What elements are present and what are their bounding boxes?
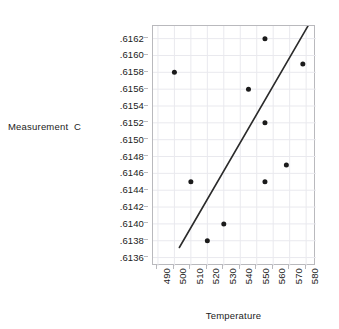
y-tick-mark xyxy=(144,155,148,156)
x-tick-label: 500 xyxy=(177,268,188,284)
y-tick-label: .6140 xyxy=(120,217,144,228)
y-tick-label: .6162 xyxy=(120,32,144,43)
y-tick-mark xyxy=(144,138,148,139)
x-tick-label: 530 xyxy=(227,268,238,284)
x-tick-mark xyxy=(288,265,289,269)
y-tick-label: .6160 xyxy=(120,49,144,60)
x-tick-label: 540 xyxy=(243,268,254,284)
x-tick-mark xyxy=(206,265,207,269)
y-tick-label: .6146 xyxy=(120,167,144,178)
data-point xyxy=(300,61,305,66)
x-tick-label: 510 xyxy=(194,268,205,284)
data-point xyxy=(262,120,267,125)
y-tick-mark xyxy=(144,88,148,89)
x-tick-label: 560 xyxy=(276,268,287,284)
y-tick-mark xyxy=(144,105,148,106)
y-tick-label: .6154 xyxy=(120,100,144,111)
y-axis-tick-labels: .6136.6138.6140.6142.6144.6146.6148.6150… xyxy=(86,0,148,329)
x-tick-mark xyxy=(239,265,240,269)
x-axis-title: Temperature xyxy=(152,310,315,321)
x-tick-mark xyxy=(173,265,174,269)
y-tick-mark xyxy=(144,121,148,122)
scatter-plot-figure: Measurement C .6136.6138.6140.6142.6144.… xyxy=(0,0,339,329)
x-tick-mark xyxy=(255,265,256,269)
y-tick-mark xyxy=(144,37,148,38)
y-tick-label: .6158 xyxy=(120,66,144,77)
y-tick-mark xyxy=(144,206,148,207)
data-point xyxy=(172,70,177,75)
x-tick-mark xyxy=(222,265,223,269)
x-tick-mark xyxy=(189,265,190,269)
data-point xyxy=(205,238,210,243)
plot-canvas xyxy=(153,26,316,266)
data-point xyxy=(284,162,289,167)
y-tick-label: .6148 xyxy=(120,150,144,161)
y-tick-label: .6144 xyxy=(120,184,144,195)
y-tick-mark xyxy=(144,189,148,190)
y-tick-label: .6138 xyxy=(120,234,144,245)
y-tick-mark xyxy=(144,222,148,223)
y-tick-mark xyxy=(144,71,148,72)
y-tick-label: .6152 xyxy=(120,116,144,127)
x-tick-mark xyxy=(272,265,273,269)
gridlines xyxy=(153,26,316,266)
plot-area xyxy=(152,25,315,265)
data-point xyxy=(262,179,267,184)
y-tick-label: .6142 xyxy=(120,201,144,212)
y-tick-mark xyxy=(144,54,148,55)
y-tick-label: .6156 xyxy=(120,83,144,94)
data-point xyxy=(221,221,226,226)
y-tick-mark xyxy=(144,256,148,257)
y-tick-mark xyxy=(144,172,148,173)
y-tick-label: .6150 xyxy=(120,133,144,144)
data-point xyxy=(246,87,251,92)
x-tick-label: 520 xyxy=(210,268,221,284)
x-tick-mark xyxy=(305,265,306,269)
data-point xyxy=(262,36,267,41)
y-tick-mark xyxy=(144,239,148,240)
x-tick-label: 490 xyxy=(161,268,172,284)
data-point xyxy=(188,179,193,184)
x-tick-label: 570 xyxy=(293,268,304,284)
x-tick-mark xyxy=(156,265,157,269)
x-tick-label: 580 xyxy=(309,268,320,284)
x-axis-tick-labels: 490500510520530540550560570580 xyxy=(152,265,315,309)
x-tick-label: 550 xyxy=(260,268,271,284)
y-tick-label: .6136 xyxy=(120,251,144,262)
